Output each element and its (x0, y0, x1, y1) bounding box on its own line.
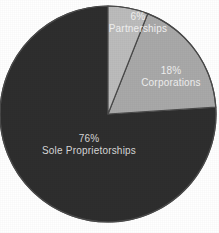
pie-chart: 6% Partnerships 18% Corporations 76% Sol… (0, 0, 219, 233)
pie-chart-graphic (0, 0, 219, 233)
